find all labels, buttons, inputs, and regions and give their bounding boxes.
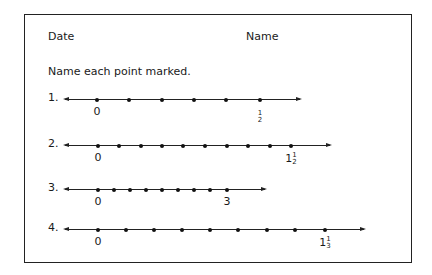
date-label: Date [48,31,74,43]
point-marker [192,98,196,102]
point-marker [127,98,131,102]
point-marker [181,144,185,148]
point-marker [293,228,297,232]
number-line [65,229,364,230]
point-marker [96,188,100,192]
point-marker [246,144,250,148]
point-marker [96,228,100,232]
worksheet-border [24,14,412,263]
point-marker [323,228,327,232]
fraction: 13 [326,236,330,250]
point-marker [160,188,164,192]
tick-label: 0 [95,236,102,248]
point-marker [176,188,180,192]
point-marker [152,228,156,232]
point-marker [128,188,132,192]
point-marker [96,144,100,148]
tick-label: 0 [95,152,102,164]
problem-number: 2. [48,138,59,150]
point-marker [208,228,212,232]
arrow-right-icon [326,143,332,147]
point-marker [139,144,143,148]
point-marker [112,188,116,192]
point-marker [192,188,196,192]
tick-label: 3 [224,196,231,208]
point-marker [144,188,148,192]
problem-number: 3. [48,182,59,194]
point-marker [225,144,229,148]
tick-label: 0 [95,196,102,208]
arrow-left-icon [63,143,69,147]
number-line [65,99,300,100]
fraction: 12 [292,152,296,166]
tick-label: 113 [319,236,330,250]
point-marker [117,144,121,148]
tick-label: 12 [258,106,262,124]
problem-number: 1. [48,92,59,104]
number-line [65,189,265,190]
arrow-right-icon [296,97,302,101]
point-marker [124,228,128,232]
arrow-left-icon [63,97,69,101]
point-marker [225,188,229,192]
arrow-left-icon [63,227,69,231]
problem-number: 4. [48,222,59,234]
point-marker [180,228,184,232]
arrow-left-icon [63,187,69,191]
point-marker [236,228,240,232]
point-marker [224,98,228,102]
tick-label: 112 [285,152,296,166]
point-marker [208,188,212,192]
arrow-right-icon [360,227,366,231]
point-marker [268,144,272,148]
point-marker [95,98,99,102]
point-marker [160,144,164,148]
tick-label: 0 [94,106,101,118]
point-marker [289,144,293,148]
point-marker [203,144,207,148]
point-marker [258,98,262,102]
fraction: 12 [258,110,262,124]
point-marker [160,98,164,102]
name-label: Name [246,31,278,43]
instructions: Name each point marked. [48,66,191,78]
arrow-right-icon [261,187,267,191]
point-marker [265,228,269,232]
